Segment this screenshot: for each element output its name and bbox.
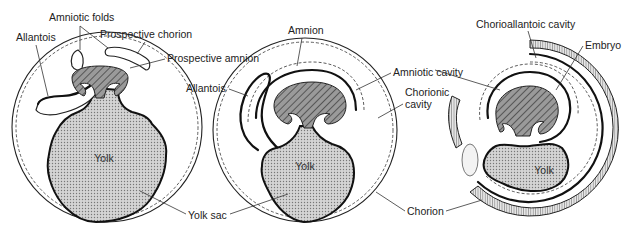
prospective-chorion-leader <box>137 42 145 54</box>
chorion-label: Chorion <box>407 205 444 217</box>
allantois-label-2: Allantois <box>186 82 226 94</box>
chorion-left-band <box>449 96 462 148</box>
yolk-sac-label: Yolk sac <box>188 209 227 221</box>
amniotic-cavity-leader <box>356 73 391 90</box>
embryo-label: Embryo <box>585 39 621 51</box>
allantois-wall <box>240 74 280 150</box>
embryo-body <box>72 66 128 98</box>
allantoic-stalk <box>462 144 478 176</box>
amniotic-cavity-label: Amniotic cavity <box>393 66 464 78</box>
membrane-development-diagram: Yolk Amniotic folds Allantois Prospectiv… <box>0 0 633 234</box>
amniotic-folds-label: Amniotic folds <box>49 11 114 23</box>
chorionic-cavity-leader <box>378 104 403 118</box>
allantois-leader <box>36 45 48 96</box>
prospective-amnion-label: Prospective amnion <box>167 52 259 64</box>
chorion-leader-1 <box>376 192 405 211</box>
panel-stage-1: Yolk Amniotic folds Allantois Prospectiv… <box>12 11 259 222</box>
prospective-chorion-label: Prospective chorion <box>100 28 192 40</box>
chorionic-cavity-label-2: cavity <box>405 98 433 110</box>
chorionic-cavity-label-1: Chorionic <box>405 86 449 98</box>
embryo-body <box>274 82 346 128</box>
yolk-mass <box>262 126 354 222</box>
allantois-label: Allantois <box>16 31 56 43</box>
embryo-body <box>496 86 558 136</box>
yolk-mass <box>484 144 569 191</box>
amniotic-fold-left <box>71 50 83 70</box>
amnion-label: Amnion <box>288 24 324 36</box>
yolk-label: Yolk <box>295 160 315 172</box>
allantois-leader-2 <box>229 89 248 96</box>
chorion-leader-2 <box>446 200 482 211</box>
yolk-label: Yolk <box>534 164 554 176</box>
chorioallantoic-cavity-label: Chorioallantoic cavity <box>476 18 576 30</box>
panel-stage-3: Yolk Chorioallantoic cavity Embryo <box>435 18 621 216</box>
yolk-label: Yolk <box>94 152 114 164</box>
diagram-canvas: Yolk Amniotic folds Allantois Prospectiv… <box>0 0 633 234</box>
